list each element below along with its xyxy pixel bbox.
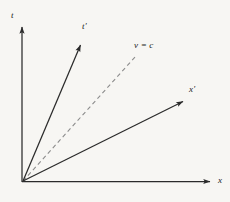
- spacetime-diagram-figure: t x t′ x′ v = c: [0, 0, 230, 202]
- x-prime-axis-line: [23, 102, 183, 182]
- x-axis-label: x: [218, 176, 222, 185]
- t-axis-label: t: [11, 11, 14, 20]
- x-prime-axis-label: x′: [189, 85, 195, 94]
- light-cone-label: v = c: [134, 41, 154, 50]
- diagram-canvas: [0, 0, 230, 202]
- light-cone-line: [23, 56, 136, 181]
- t-prime-axis-label: t′: [82, 22, 87, 31]
- t-prime-axis-line: [23, 45, 81, 181]
